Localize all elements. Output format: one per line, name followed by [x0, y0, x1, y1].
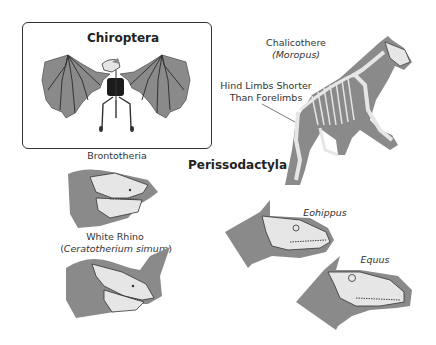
equus-skull	[0, 0, 436, 345]
